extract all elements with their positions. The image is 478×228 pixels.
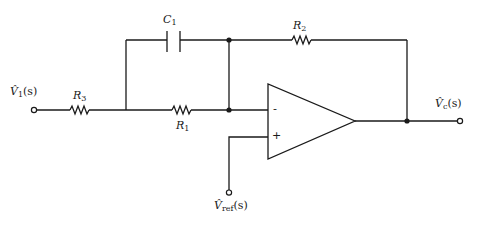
label-input-voltage: V̂1(s) xyxy=(10,86,37,99)
input-terminal-icon xyxy=(31,107,36,112)
junction-dot-icon xyxy=(226,37,231,42)
label-c1: C1 xyxy=(163,14,177,27)
opamp-noninverting-sign: + xyxy=(272,130,281,141)
opamp-icon xyxy=(268,84,355,159)
circuit-diagram: C1 R2 R3 R1 V̂1(s) V̂c(s) V̂ref(s) - + xyxy=(0,0,478,228)
resistor-r3-icon xyxy=(70,106,89,114)
label-output-voltage: V̂c(s) xyxy=(435,98,462,111)
resistor-r2-icon xyxy=(292,36,311,44)
junction-dot-icon xyxy=(226,107,231,112)
label-r3: R3 xyxy=(73,90,86,103)
label-reference-voltage: V̂ref(s) xyxy=(214,200,248,213)
junction-dot-icon xyxy=(404,118,409,123)
output-terminal-icon xyxy=(457,118,462,123)
reference-terminal-icon xyxy=(226,190,231,195)
label-r1: R1 xyxy=(176,120,189,133)
label-r2: R2 xyxy=(293,20,306,33)
opamp-inverting-sign: - xyxy=(273,103,277,114)
resistor-r1-icon xyxy=(172,106,191,114)
schematic-drawing xyxy=(0,0,478,228)
wire xyxy=(229,137,268,190)
